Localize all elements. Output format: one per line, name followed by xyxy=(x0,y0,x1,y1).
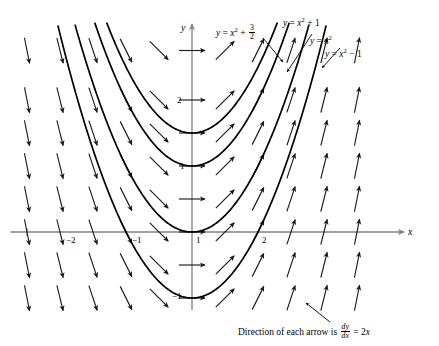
slope-arrow xyxy=(287,286,295,311)
slope-arrow xyxy=(216,157,234,175)
slope-arrow xyxy=(216,190,234,208)
slope-arrow xyxy=(287,38,295,63)
slope-arrow xyxy=(24,38,29,64)
slope-arrow xyxy=(354,285,359,311)
y-tick-label-1: 1 xyxy=(180,161,185,171)
y-tick-label-2: 2 xyxy=(177,95,182,105)
slope-arrow xyxy=(150,190,168,208)
slope-arrow xyxy=(150,289,168,307)
slope-arrow xyxy=(321,285,327,310)
slope-arrow xyxy=(321,120,327,145)
slope-arrow xyxy=(24,87,29,113)
slope-arrow xyxy=(216,256,234,274)
slope-arrow xyxy=(120,286,132,309)
slope-arrow xyxy=(57,252,63,277)
slope-arrow xyxy=(321,186,327,211)
slope-arrow xyxy=(150,41,168,59)
slope-arrow xyxy=(24,153,29,179)
slope-arrow xyxy=(89,38,97,63)
y-axis-label: y xyxy=(181,22,185,33)
slope-arrow xyxy=(150,124,168,142)
slope-arrow xyxy=(150,256,168,274)
slope-arrow xyxy=(252,121,264,144)
x-axis-label: x xyxy=(408,226,412,237)
slope-field-figure: y = x2 + 32y = x2 + 1y = x2y = x2 − 1yx−… xyxy=(0,0,439,346)
x-tick-label-neg2: −2 xyxy=(66,235,76,245)
slope-arrow xyxy=(120,187,132,210)
slope-arrow xyxy=(216,91,234,109)
slope-arrow xyxy=(321,153,327,178)
slope-arrow xyxy=(89,253,97,278)
slope-arrow xyxy=(354,87,359,113)
slope-arrow xyxy=(287,187,295,212)
y-tick-label-neg1: −1 xyxy=(172,291,182,301)
slope-arrow xyxy=(252,286,264,309)
slope-arrow xyxy=(252,253,264,276)
slope-arrow xyxy=(120,253,132,276)
slope-arrow xyxy=(57,285,63,310)
slope-arrow xyxy=(57,186,63,211)
slope-arrow xyxy=(321,252,327,277)
slope-arrow xyxy=(57,153,63,178)
x-tick-label-2: 2 xyxy=(262,235,267,245)
x-tick-label-1: 1 xyxy=(196,235,201,245)
label-leader-line xyxy=(306,303,330,322)
slope-arrow xyxy=(150,157,168,175)
figure-caption: Direction of each arrow is dydx = 2x xyxy=(238,323,370,341)
slope-arrow xyxy=(354,252,359,278)
slope-arrow xyxy=(321,87,327,112)
curve-label-y-eq-x2-plus-3-over-2: y = x2 + 32 xyxy=(216,24,256,42)
curve-label-y-eq-x2-plus-1: y = x2 + 1 xyxy=(283,16,320,28)
slope-arrow xyxy=(89,286,97,311)
slope-arrow xyxy=(354,153,359,179)
slope-arrow xyxy=(252,187,264,210)
slope-arrow xyxy=(354,120,359,146)
slope-arrow xyxy=(24,252,29,278)
slope-arrow xyxy=(216,124,234,142)
slope-arrow xyxy=(24,285,29,311)
curve-label-y-eq-x2: y = x2 xyxy=(310,34,332,46)
x-tick-label-neg1: −1 xyxy=(132,235,142,245)
slope-arrow xyxy=(89,187,97,212)
slope-arrow xyxy=(24,120,29,146)
curve-label-y-eq-x2-minus-1: y = x2 − 1 xyxy=(325,47,362,59)
slope-arrow xyxy=(216,41,234,59)
slope-arrow xyxy=(57,120,63,145)
slope-arrow xyxy=(287,253,295,278)
slope-arrow xyxy=(150,91,168,109)
slope-arrow xyxy=(24,186,29,212)
slope-arrow xyxy=(57,87,63,112)
plot-canvas xyxy=(0,0,439,346)
slope-arrow xyxy=(216,289,234,307)
slope-arrow xyxy=(120,121,132,144)
slope-arrow xyxy=(354,186,359,212)
